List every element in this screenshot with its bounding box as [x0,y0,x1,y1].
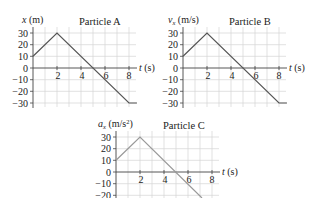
y-tick-labels-b: 30 20 10 0 −10 −20 −30 [162,28,178,109]
figure-canvas: 30 20 10 0 −10 −20 −30 2 4 6 8 x (m) t (… [0,0,309,198]
svg-text:8: 8 [127,70,132,81]
chart-title-b: Particle B [229,16,271,27]
y-tick-labels-c: 30 20 10 0 −10 −20 [95,132,111,199]
x-axis-label-a: t (s) [139,62,155,74]
svg-text:6: 6 [104,70,109,81]
svg-text:30: 30 [168,28,178,39]
y-axis-label-c: ax (m/s2) [98,118,133,130]
svg-text:10: 10 [168,51,178,62]
svg-text:20: 20 [168,39,178,50]
svg-text:−10: −10 [12,74,28,85]
svg-text:20: 20 [101,143,111,154]
svg-text:2: 2 [56,70,61,81]
svg-text:2: 2 [206,70,211,81]
svg-text:10: 10 [18,51,28,62]
svg-text:0: 0 [106,167,111,178]
y-axis-label-b: vx (m/s) [168,14,199,26]
svg-text:−20: −20 [95,190,111,198]
svg-text:−30: −30 [162,98,178,109]
svg-text:6: 6 [187,174,192,185]
chart-particle-b: 30 20 10 0 −10 −20 −30 2 4 6 8 vx (m/s) … [162,14,304,109]
chart-title-a: Particle A [79,16,121,27]
chart-particle-c: 30 20 10 0 −10 −20 2 4 6 8 ax (m/s2) t (… [95,118,237,198]
x-axis-label-b: t (s) [289,62,305,74]
svg-text:4: 4 [163,174,168,185]
svg-text:8: 8 [210,174,215,185]
svg-text:2: 2 [139,174,144,185]
svg-text:6: 6 [254,70,259,81]
svg-text:−20: −20 [12,86,28,97]
svg-text:10: 10 [101,155,111,166]
svg-text:4: 4 [80,70,85,81]
svg-text:−10: −10 [162,74,178,85]
svg-text:0: 0 [173,63,178,74]
svg-text:30: 30 [18,28,28,39]
chart-particle-a: 30 20 10 0 −10 −20 −30 2 4 6 8 x (m) t (… [12,14,154,109]
svg-text:−20: −20 [162,86,178,97]
y-tick-labels-a: 30 20 10 0 −10 −20 −30 [12,28,28,109]
svg-text:8: 8 [277,70,282,81]
x-axis-label-c: t (s) [222,166,238,178]
svg-text:−30: −30 [12,98,28,109]
svg-text:−10: −10 [95,178,111,189]
y-axis-label-a: x (m) [21,14,43,26]
chart-title-c: Particle C [163,120,205,131]
svg-text:30: 30 [101,132,111,143]
svg-text:0: 0 [23,63,28,74]
svg-text:4: 4 [230,70,235,81]
svg-text:20: 20 [18,39,28,50]
data-line-c [116,137,202,198]
